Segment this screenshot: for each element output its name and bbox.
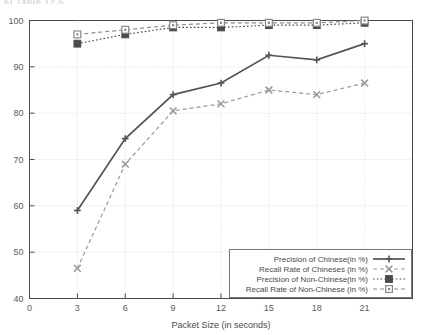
data-point-filled-square bbox=[74, 40, 81, 47]
data-point-open-square bbox=[74, 31, 81, 38]
data-point-open-square bbox=[361, 17, 368, 24]
y-tick-label: 40 bbox=[13, 294, 23, 304]
x-tick-label: 3 bbox=[75, 303, 80, 313]
y-tick-label: 60 bbox=[13, 201, 23, 211]
x-tick-label: 21 bbox=[360, 303, 370, 313]
x-tick-label: 18 bbox=[312, 303, 322, 313]
y-tick-label: 90 bbox=[13, 62, 23, 72]
data-point-filled-square bbox=[386, 276, 393, 283]
data-point-open-square bbox=[218, 19, 225, 26]
y-tick-label: 80 bbox=[13, 108, 23, 118]
data-point-open-square bbox=[265, 19, 272, 26]
x-tick-label: 12 bbox=[216, 303, 226, 313]
y-tick-label: 50 bbox=[13, 247, 23, 257]
chart-figure: AI Table 12.5 405060708090100 0369121518… bbox=[0, 0, 431, 335]
chart-legend: Precision of Chinese(in %)Recall Rate of… bbox=[230, 250, 412, 298]
x-axis-title: Packet Size (in seconds) bbox=[171, 320, 270, 330]
legend-label-2: Precision of Non-Chinese(in %) bbox=[256, 275, 368, 284]
x-tick-label: 15 bbox=[264, 303, 274, 313]
data-point-open-square bbox=[313, 19, 320, 26]
line-chart: 405060708090100 036912151821 Packet Size… bbox=[0, 0, 431, 335]
legend-label-1: Recall Rate of Chineses (in %) bbox=[259, 265, 368, 274]
y-tick-label: 70 bbox=[13, 155, 23, 165]
y-tick-label: 100 bbox=[8, 16, 23, 26]
data-point-open-square bbox=[122, 26, 129, 33]
data-point-open-square bbox=[170, 22, 177, 29]
x-tick-label: 6 bbox=[123, 303, 128, 313]
legend-label-3: Recall Rate of Non-Chinese (in %) bbox=[246, 285, 369, 294]
x-tick-label: 0 bbox=[27, 303, 32, 313]
x-tick-label: 9 bbox=[171, 303, 176, 313]
data-point-open-square bbox=[386, 286, 393, 293]
page-header-fragment: AI Table 12.5 bbox=[3, 0, 64, 4]
legend-label-0: Precision of Chinese(in %) bbox=[274, 255, 369, 264]
